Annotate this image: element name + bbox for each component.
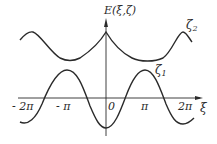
curve-zeta1 xyxy=(20,70,194,128)
dispersion-plot xyxy=(0,0,217,144)
tick-label-zero: 0 xyxy=(108,101,115,112)
y-axis-arrow-icon xyxy=(104,18,108,27)
x-axis-arrow-icon xyxy=(195,96,203,100)
x-axis-label: ξ xyxy=(200,102,207,114)
curve-label-zeta1: ζ1 xyxy=(155,64,167,78)
zeta2-subscript: 2 xyxy=(193,24,198,33)
tick-label-neg-2pi: - 2π xyxy=(12,101,33,112)
y-axis-label: E(ξ,ζ) xyxy=(104,5,136,16)
tick-label-neg-pi: - π xyxy=(56,101,70,112)
curve-label-zeta2: ζ2 xyxy=(186,19,198,33)
tick-label-2pi: 2π xyxy=(178,101,192,112)
zeta1-subscript: 1 xyxy=(162,69,167,78)
tick-label-pi: π xyxy=(141,101,148,112)
